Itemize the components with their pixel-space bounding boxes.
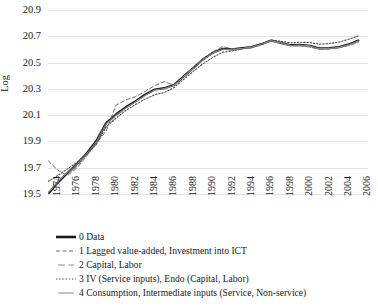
legend-item[interactable]: 3 IV (Service inputs), Endo (Capital, La…	[56, 272, 368, 286]
legend-label: 2 Capital, Labor	[79, 260, 142, 270]
x-axis-tick-label: 1974	[52, 176, 62, 196]
legend-label: 0 Data	[79, 232, 104, 242]
x-axis-tick-label: 1978	[91, 176, 101, 196]
legend-swatch-3	[56, 274, 76, 284]
line-chart-figure: Log 20.920.720.520.320.119.919.719.5 197…	[0, 0, 378, 308]
x-axis-tick-label: 1980	[110, 176, 120, 196]
legend-label: 1 Lagged value-added, Investment into IC…	[79, 246, 247, 256]
y-axis-tick-labels: 20.920.720.520.320.119.919.719.5	[0, 0, 46, 204]
legend-label: 4 Consumption, Intermediate inputs (Serv…	[79, 288, 306, 298]
legend-swatch-0	[56, 232, 76, 242]
legend-swatch-2	[56, 260, 76, 270]
legend-item[interactable]: 1 Lagged value-added, Investment into IC…	[56, 244, 368, 258]
x-axis-tick-label: 2000	[304, 176, 314, 196]
legend-item[interactable]: 4 Consumption, Intermediate inputs (Serv…	[56, 286, 368, 300]
legend-swatch-4	[56, 288, 76, 298]
y-axis-tick-label: 20.3	[23, 84, 41, 95]
chart-legend: 0 Data1 Lagged value-added, Investment i…	[56, 230, 368, 300]
x-axis-tick-label: 1996	[265, 176, 275, 196]
y-axis-tick-label: 19.9	[23, 136, 41, 147]
x-axis-tick-label: 1994	[246, 176, 256, 196]
legend-label: 3 IV (Service inputs), Endo (Capital, La…	[79, 274, 249, 284]
series-line-3	[48, 36, 358, 181]
y-axis-tick-label: 19.5	[23, 189, 41, 200]
x-axis-tick-label: 1986	[168, 176, 178, 196]
y-axis-tick-label: 20.7	[23, 31, 41, 42]
x-axis-tick-label: 1976	[71, 176, 81, 196]
series-line-1	[48, 40, 358, 175]
x-axis-tick-label: 2006	[362, 176, 372, 196]
plot-area	[48, 10, 368, 194]
y-axis-tick-label: 19.7	[23, 162, 41, 173]
x-axis-tick-labels: 1974197619781980198219841986198819901992…	[48, 196, 368, 230]
legend-item[interactable]: 2 Capital, Labor	[56, 258, 368, 272]
legend-swatch-1	[56, 246, 76, 256]
y-axis-tick-label: 20.9	[23, 5, 41, 16]
x-axis-tick-label: 1982	[130, 176, 140, 196]
legend-item[interactable]: 0 Data	[56, 230, 368, 244]
y-axis-tick-label: 20.1	[23, 110, 41, 121]
x-axis-tick-label: 1990	[207, 176, 217, 196]
x-axis-tick-label: 1984	[149, 176, 159, 196]
x-axis-tick-label: 1998	[285, 176, 295, 196]
x-axis-tick-label: 2004	[343, 176, 353, 196]
x-axis-tick-label: 1988	[188, 176, 198, 196]
y-axis-tick-label: 20.5	[23, 57, 41, 68]
data-series-layer	[48, 10, 368, 194]
x-axis-tick-label: 2002	[324, 176, 334, 196]
x-axis-tick-label: 1992	[227, 176, 237, 196]
